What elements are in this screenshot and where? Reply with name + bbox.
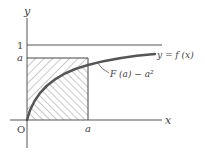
y-axis-label: y: [23, 5, 31, 18]
origin-label: O: [17, 124, 25, 135]
tick-label-y-one: 1: [17, 40, 23, 51]
function-graph: y x O 1 a a y = f (x) F (a) − a²: [0, 0, 205, 152]
leader-line: [97, 62, 109, 73]
region-label: F (a) − a²: [109, 69, 154, 79]
curve-label: y = f (x): [156, 50, 194, 60]
tick-label-x-a: a: [85, 123, 91, 134]
x-axis-label: x: [165, 114, 172, 127]
tick-label-y-a: a: [17, 52, 23, 63]
